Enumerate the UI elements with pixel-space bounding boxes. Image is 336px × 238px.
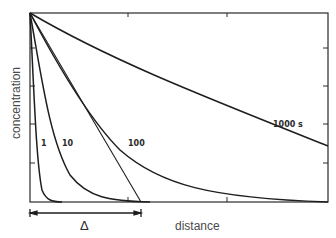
- curve-100: [30, 13, 328, 202]
- curve-10: [30, 13, 150, 202]
- chart-canvas: [0, 0, 336, 238]
- y-axis-label: concentration: [9, 63, 23, 143]
- plot-frame: [30, 13, 328, 202]
- x-axis-label: distance: [175, 219, 220, 233]
- curve-label-1: 1: [41, 139, 47, 148]
- curve-label-100: 100: [128, 139, 145, 148]
- curves: [30, 13, 328, 202]
- axis-ticks: [30, 13, 328, 202]
- curve-label-10: 10: [62, 139, 73, 148]
- delta-label: Δ: [80, 218, 89, 233]
- curve-label-1000: 1000 s: [273, 120, 303, 129]
- delta-arrow: [30, 209, 141, 217]
